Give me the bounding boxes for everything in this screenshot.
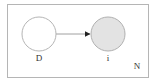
node-i-label: i: [107, 54, 110, 63]
plate-label: N: [134, 62, 141, 71]
diagram-canvas: [0, 0, 153, 82]
plate-diagram: D i N: [0, 0, 153, 82]
node-d: [22, 17, 56, 51]
node-i: [91, 17, 125, 51]
node-d-label: D: [36, 54, 43, 63]
